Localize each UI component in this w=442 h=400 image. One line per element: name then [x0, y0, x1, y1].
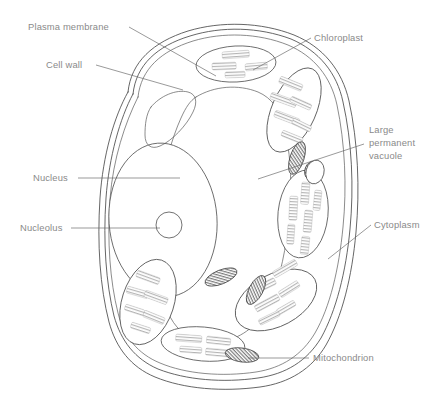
label-chloroplast: Chloroplast	[314, 32, 363, 43]
mitochondrion	[224, 346, 260, 365]
label-vacuole-line-2: permanent	[369, 137, 415, 148]
chloroplast-membrane	[256, 60, 333, 160]
cytoplasm-pocket	[145, 91, 196, 147]
granum	[289, 196, 298, 220]
label-vacuole-line-3: vacuole	[369, 150, 402, 161]
label-plasma-membrane: Plasma membrane	[28, 21, 109, 32]
label-cytoplasm: Cytoplasm	[374, 219, 420, 230]
granum	[212, 62, 236, 70]
leader-plasma-membrane	[129, 27, 216, 76]
mitochondrion	[203, 264, 240, 290]
granum	[300, 236, 310, 255]
chloroplast	[256, 60, 333, 160]
nucleolus-body	[156, 212, 182, 238]
granum	[303, 210, 313, 233]
granum	[180, 346, 202, 354]
label-mitochondrion: Mitochondrion	[313, 352, 374, 363]
chloroplast	[225, 256, 327, 343]
granum	[300, 182, 310, 205]
label-nucleolus: Nucleolus	[20, 222, 63, 233]
plant-cell-diagram: Plasma membrane Cell wall Nucleus Nucleo…	[0, 0, 442, 400]
chloroplast	[274, 168, 333, 261]
leader-cell-wall	[96, 65, 183, 90]
cell-diagram-canvas: Plasma membrane Cell wall Nucleus Nucleo…	[0, 0, 442, 400]
label-nucleus: Nucleus	[33, 172, 68, 183]
label-large-permanent-vacuole: Large permanent vacuole	[369, 124, 415, 161]
granum	[287, 224, 295, 244]
granum	[225, 71, 245, 78]
label-vacuole-line-1: Large	[369, 124, 394, 135]
chloroplast	[195, 44, 277, 84]
label-cell-wall: Cell wall	[46, 59, 82, 70]
